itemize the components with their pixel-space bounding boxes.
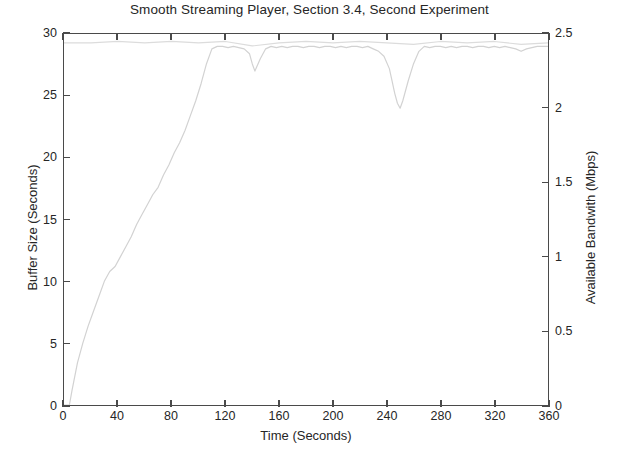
y-left-tick-mark: [63, 219, 70, 220]
y-left-tick-mark: [63, 405, 70, 406]
x-tick-mark: [278, 33, 279, 40]
x-tick-mark: [224, 33, 225, 40]
y-left-tick-label: 15: [43, 213, 57, 227]
y-left-tick-label: 20: [43, 150, 57, 164]
x-tick-mark: [170, 400, 171, 407]
x-tick-mark: [278, 400, 279, 407]
x-tick-mark: [548, 33, 549, 40]
y-left-tick-label: 0: [50, 399, 57, 413]
x-tick-mark: [62, 33, 63, 40]
x-tick-label: 120: [215, 409, 236, 423]
y-left-tick-label: 10: [43, 275, 57, 289]
chart-legend: Video Playback Buffer Size Available Ban…: [364, 403, 549, 406]
x-axis-title: Time (Seconds): [63, 428, 549, 443]
y-axis-right-title: Available Bandwith (Mbps): [583, 108, 598, 348]
legend-item-video-playback-buffer-size: Video Playback Buffer Size: [364, 403, 549, 406]
y-left-tick-mark: [63, 95, 70, 96]
y-left-tick-mark: [63, 32, 70, 33]
y-right-tick-mark: [542, 182, 549, 183]
x-tick-label: 40: [110, 409, 124, 423]
x-tick-label: 160: [269, 409, 290, 423]
chart-title: Smooth Streaming Player, Section 3.4, Se…: [0, 2, 619, 17]
x-tick-mark: [224, 400, 225, 407]
series-line-available-bandwidth: [64, 41, 548, 45]
y-right-tick-label: 0.5: [555, 324, 572, 338]
x-tick-mark: [116, 400, 117, 407]
y-right-tick-mark: [542, 256, 549, 257]
y-right-tick-mark: [542, 405, 549, 406]
x-tick-mark: [494, 33, 495, 40]
y-left-tick-mark: [63, 343, 70, 344]
y-left-tick-label: 5: [50, 337, 57, 351]
y-right-tick-mark: [542, 331, 549, 332]
plot-series-canvas: [64, 34, 548, 405]
y-right-tick-label: 2.5: [555, 26, 572, 40]
x-tick-label: 0: [60, 409, 67, 423]
series-line-video-playback-buffer-size: [64, 46, 548, 405]
x-tick-mark: [332, 400, 333, 407]
plot-area: Video Playback Buffer Size Available Ban…: [63, 33, 549, 406]
y-right-tick-label: 1: [555, 250, 562, 264]
y-right-tick-mark: [542, 107, 549, 108]
x-tick-label: 240: [377, 409, 398, 423]
x-tick-mark: [440, 400, 441, 407]
x-tick-mark: [332, 33, 333, 40]
y-left-tick-mark: [63, 281, 70, 282]
y-right-tick-label: 1.5: [555, 175, 572, 189]
x-tick-mark: [170, 33, 171, 40]
x-tick-mark: [494, 400, 495, 407]
y-right-tick-label: 0: [555, 399, 562, 413]
x-tick-mark: [386, 33, 387, 40]
y-left-tick-label: 25: [43, 88, 57, 102]
x-tick-mark: [116, 33, 117, 40]
chart-figure: Smooth Streaming Player, Section 3.4, Se…: [0, 0, 619, 449]
x-tick-mark: [440, 33, 441, 40]
x-tick-label: 200: [323, 409, 344, 423]
y-right-tick-mark: [542, 32, 549, 33]
x-tick-label: 320: [485, 409, 506, 423]
y-right-tick-label: 2: [555, 101, 562, 115]
y-left-tick-mark: [63, 157, 70, 158]
x-tick-label: 80: [164, 409, 178, 423]
legend-label-video-playback-buffer-size: Video Playback Buffer Size: [378, 403, 534, 406]
y-left-tick-label: 30: [43, 26, 57, 40]
x-tick-label: 280: [431, 409, 452, 423]
x-tick-mark: [386, 400, 387, 407]
y-axis-left-title: Buffer Size (Seconds): [25, 118, 40, 338]
